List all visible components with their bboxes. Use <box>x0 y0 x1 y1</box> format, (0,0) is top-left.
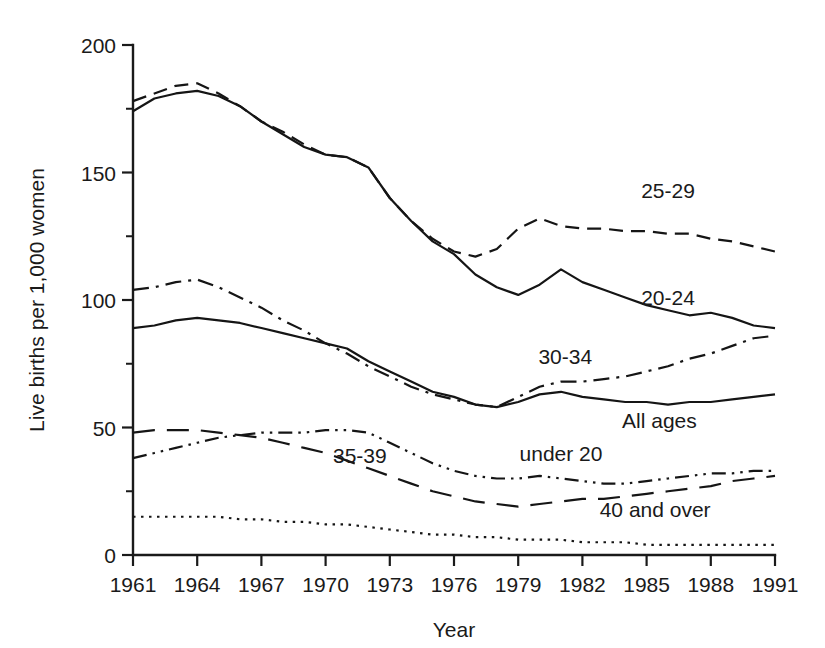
x-tick-label: 1985 <box>623 573 670 596</box>
x-tick-label: 1991 <box>752 573 799 596</box>
series-line-under-20 <box>133 430 775 484</box>
x-tick-label: 1982 <box>559 573 606 596</box>
series-label-20-24: 20-24 <box>641 286 695 309</box>
x-axis-title: Year <box>433 618 475 641</box>
x-tick-label: 1979 <box>495 573 542 596</box>
series-inline-labels: 25-2920-2430-34All ages35-39under 2040 a… <box>333 179 711 521</box>
series-line-40-and-over <box>133 517 775 545</box>
axis-titles: YearLive births per 1,000 women <box>25 168 475 641</box>
series-label-25-29: 25-29 <box>641 179 695 202</box>
chart-canvas: 0501001502001961196419671970197319761979… <box>0 0 825 648</box>
series-line-all-ages <box>133 318 775 407</box>
series-label-under-20: under 20 <box>520 442 603 465</box>
y-tick-label: 0 <box>104 544 116 567</box>
series-label-30-34: 30-34 <box>538 345 592 368</box>
x-tick-label: 1973 <box>366 573 413 596</box>
x-tick-label: 1961 <box>110 573 157 596</box>
y-axis-title: Live births per 1,000 women <box>25 168 48 432</box>
y-tick-label: 50 <box>93 417 116 440</box>
series-line-25-29 <box>133 83 775 256</box>
x-tick-label: 1988 <box>687 573 734 596</box>
series-line-35-39 <box>133 430 775 507</box>
x-tick-label: 1964 <box>174 573 221 596</box>
chart-figure: 0501001502001961196419671970197319761979… <box>0 0 825 648</box>
data-series-lines <box>133 83 775 545</box>
series-label-35-39: 35-39 <box>333 444 387 467</box>
x-tick-label: 1967 <box>238 573 285 596</box>
x-tick-label: 1976 <box>431 573 478 596</box>
series-label-all-ages: All ages <box>622 409 697 432</box>
y-tick-label: 100 <box>81 289 116 312</box>
y-tick-label: 150 <box>81 162 116 185</box>
x-tick-label: 1970 <box>302 573 349 596</box>
series-label-40-and-over: 40 and over <box>600 498 711 521</box>
y-tick-label: 200 <box>81 34 116 57</box>
